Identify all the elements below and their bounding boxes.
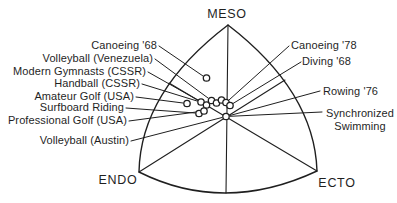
somatochart-figure: MESO ENDO ECTO Canoeing '68 Volleyball (… [0,0,397,203]
axis-label-endo: ENDO [99,173,138,187]
leader-surfboard-riding [126,108,195,113]
label-canoeing-78: Canoeing '78 [291,39,357,52]
label-volleyball-austin: Volleyball (Austin) [40,134,129,147]
data-point [227,102,233,108]
label-canoeing-68: Canoeing '68 [91,39,157,52]
leader-diving-68 [233,62,301,104]
axis-label-meso: MESO [207,7,247,21]
label-synchronized-swimming: Synchronized Swimming [322,107,397,132]
label-professional-golf: Professional Golf (USA) [8,114,127,127]
data-point [184,100,190,106]
meso-axis-line [226,25,228,193]
data-point [201,108,207,114]
leader-synchronized-swimming [230,112,322,116]
data-point [223,113,229,119]
label-handball: Handball (CSSR) [54,77,140,90]
data-point [203,75,209,81]
leader-volleyball-austin [131,118,222,142]
leader-rowing-76 [230,91,320,116]
leader-canoeing-78 [229,46,289,100]
leader-canoeing-68 [159,46,203,76]
label-surfboard-riding: Surfboard Riding [40,101,124,114]
label-volleyball-venezuela: Volleyball (Venezuela) [43,52,153,65]
label-diving-68: Diving '68 [302,55,351,68]
leader-professional-golf [129,112,200,122]
axis-label-ecto: ECTO [318,176,355,190]
endo-axis-line [139,80,285,172]
label-rowing-76: Rowing '76 [323,85,378,98]
